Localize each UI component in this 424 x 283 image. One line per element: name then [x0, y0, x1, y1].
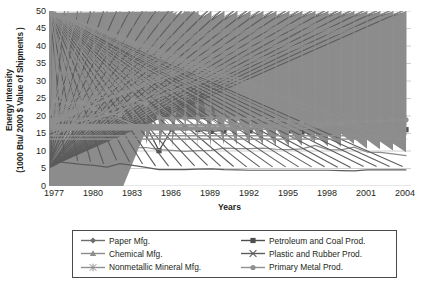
y-axis-tick-30: 30 — [24, 77, 46, 86]
x-axis-tick-2001: 2001 — [349, 188, 383, 198]
y-axis-tick-40: 40 — [24, 42, 46, 51]
x-axis-tick-1995: 1995 — [271, 188, 305, 198]
chart-legend: Paper Mfg.Petroleum and Coal Prod.Chemic… — [72, 230, 397, 278]
y-axis-tick-20: 20 — [24, 112, 46, 121]
legend-label: Paper Mfg. — [109, 236, 150, 246]
plot-area — [49, 11, 411, 186]
x-axis-tick-1998: 1998 — [310, 188, 344, 198]
legend-label: Chemical Mfg. — [109, 249, 163, 259]
legend-label: Nonmetallic Mineral Mfg. — [109, 262, 201, 272]
x-axis-tick-1992: 1992 — [232, 188, 266, 198]
x-axis-tick-1977: 1977 — [37, 188, 71, 198]
x-axis-tick-1989: 1989 — [193, 188, 227, 198]
legend-item[interactable]: Paper Mfg. — [79, 235, 239, 246]
y-axis-tick-15: 15 — [24, 129, 46, 138]
y-axis-tick-25: 25 — [24, 94, 46, 103]
legend-marker-icon — [239, 248, 267, 259]
legend-label: Plastic and Rubber Prod. — [269, 249, 362, 259]
plot-svg — [50, 11, 411, 186]
y-axis-tick-5: 5 — [24, 164, 46, 173]
legend-label: Primary Metal Prod. — [269, 262, 343, 272]
legend-marker-icon — [79, 262, 107, 273]
legend-marker-icon — [239, 235, 267, 246]
x-axis-tick-1986: 1986 — [154, 188, 188, 198]
legend-label: Petroleum and Coal Prod. — [269, 236, 365, 246]
legend-item[interactable]: Plastic and Rubber Prod. — [239, 248, 392, 259]
y-axis-tick-35: 35 — [24, 59, 46, 68]
legend-marker-icon — [79, 235, 107, 246]
energy-intensity-line-chart: Energy Intensity (1000 Btu/ 2000 $ Value… — [0, 0, 424, 283]
legend-item[interactable]: Petroleum and Coal Prod. — [239, 235, 392, 246]
y-axis-tick-10: 10 — [24, 147, 46, 156]
legend-marker-icon — [239, 262, 267, 273]
x-axis-tick-1983: 1983 — [115, 188, 149, 198]
legend-item[interactable]: Primary Metal Prod. — [239, 262, 392, 273]
legend-marker-icon — [79, 248, 107, 259]
y-axis-title-line1: Energy Intensity — [4, 27, 15, 172]
legend-item[interactable]: Nonmetallic Mineral Mfg. — [79, 262, 239, 273]
y-axis-tick-50: 50 — [24, 7, 46, 16]
x-axis-tick-labels: 1977198019831986198919921995199820012004 — [49, 188, 410, 202]
y-axis-tick-labels: 05101520253035404550 — [22, 0, 46, 200]
legend-item[interactable]: Chemical Mfg. — [79, 248, 239, 259]
y-axis-tick-45: 45 — [24, 24, 46, 33]
x-axis-tick-2004: 2004 — [388, 188, 422, 198]
x-axis-tick-1980: 1980 — [76, 188, 110, 198]
x-axis-title: Years — [49, 202, 410, 212]
